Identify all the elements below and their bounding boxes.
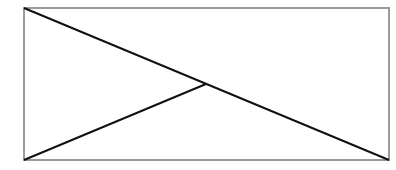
branch-line [24,84,206,160]
diagram-canvas [0,0,396,170]
